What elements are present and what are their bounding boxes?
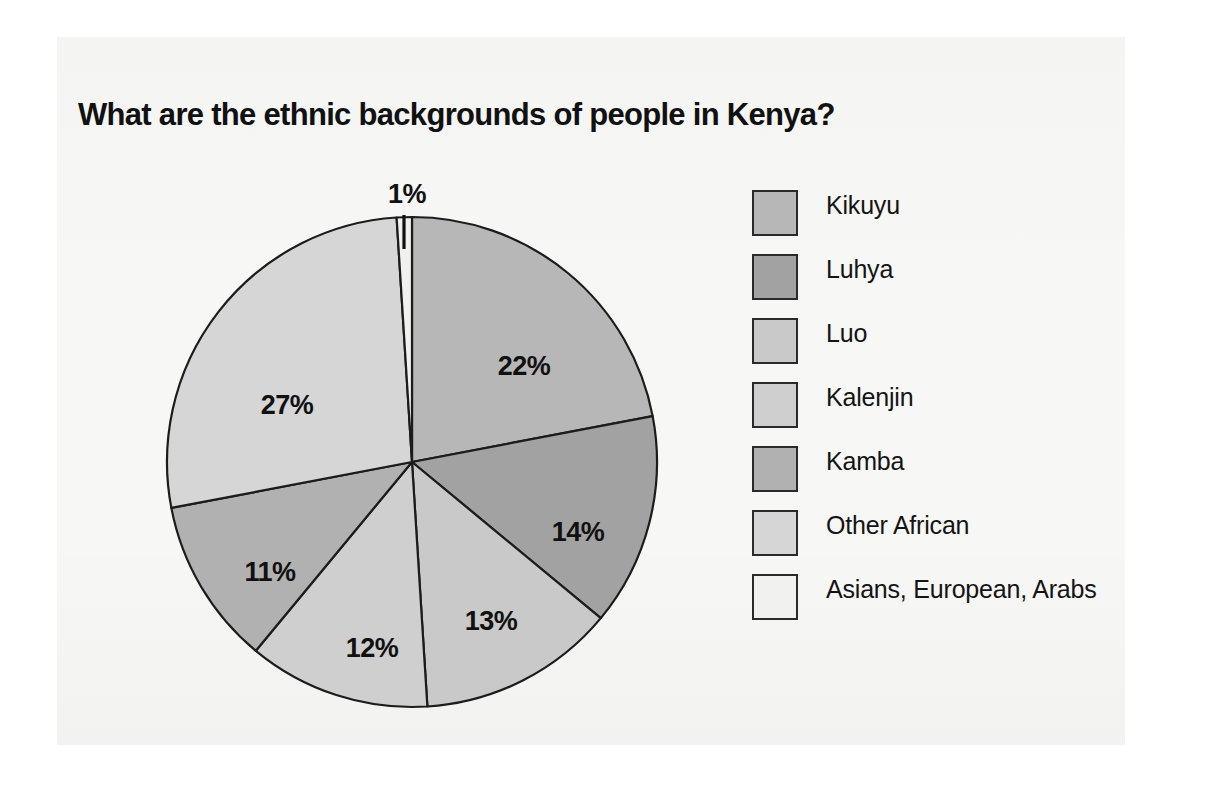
page-title: What are the ethnic backgrounds of peopl… — [78, 97, 1078, 133]
legend-item[interactable]: Kalenjin — [752, 380, 1112, 428]
legend-item[interactable]: Luo — [752, 316, 1112, 364]
pie-slice-value-label: 11% — [244, 557, 296, 587]
pie-slice-value-label: 1% — [388, 179, 427, 209]
legend-item-label: Kikuyu — [826, 188, 900, 223]
legend-item-label: Other African — [826, 508, 969, 543]
legend-swatch-icon — [752, 254, 798, 300]
legend-swatch-icon — [752, 318, 798, 364]
pie-slice-value-label: 14% — [552, 517, 605, 547]
legend-item[interactable]: Other African — [752, 508, 1112, 556]
legend-swatch-icon — [752, 190, 798, 236]
pie-chart: 22%14%13%12%11%27%1% — [150, 170, 690, 770]
pie-slice-value-label: 13% — [465, 606, 518, 636]
legend-item[interactable]: Kikuyu — [752, 188, 1112, 236]
legend-swatch-icon — [752, 574, 798, 620]
pie-slice[interactable] — [167, 217, 412, 507]
legend-item-label: Asians, European, Arabs — [826, 572, 1097, 607]
legend-item-label: Luhya — [826, 252, 893, 287]
pie-slice-value-label: 27% — [261, 390, 314, 420]
pie-chart-svg: 22%14%13%12%11%27%1% — [150, 170, 690, 770]
legend: KikuyuLuhyaLuoKalenjinKambaOther African… — [752, 188, 1112, 636]
legend-swatch-icon — [752, 382, 798, 428]
pie-slices — [167, 217, 657, 707]
pie-slice-value-label: 22% — [498, 351, 551, 381]
legend-swatch-icon — [752, 510, 798, 556]
legend-item-label: Luo — [826, 316, 867, 351]
pie-slice-value-label: 12% — [346, 633, 399, 663]
legend-item[interactable]: Asians, European, Arabs — [752, 572, 1112, 620]
legend-item-label: Kalenjin — [826, 380, 913, 415]
legend-item[interactable]: Luhya — [752, 252, 1112, 300]
legend-item-label: Kamba — [826, 444, 904, 479]
legend-swatch-icon — [752, 446, 798, 492]
legend-item[interactable]: Kamba — [752, 444, 1112, 492]
